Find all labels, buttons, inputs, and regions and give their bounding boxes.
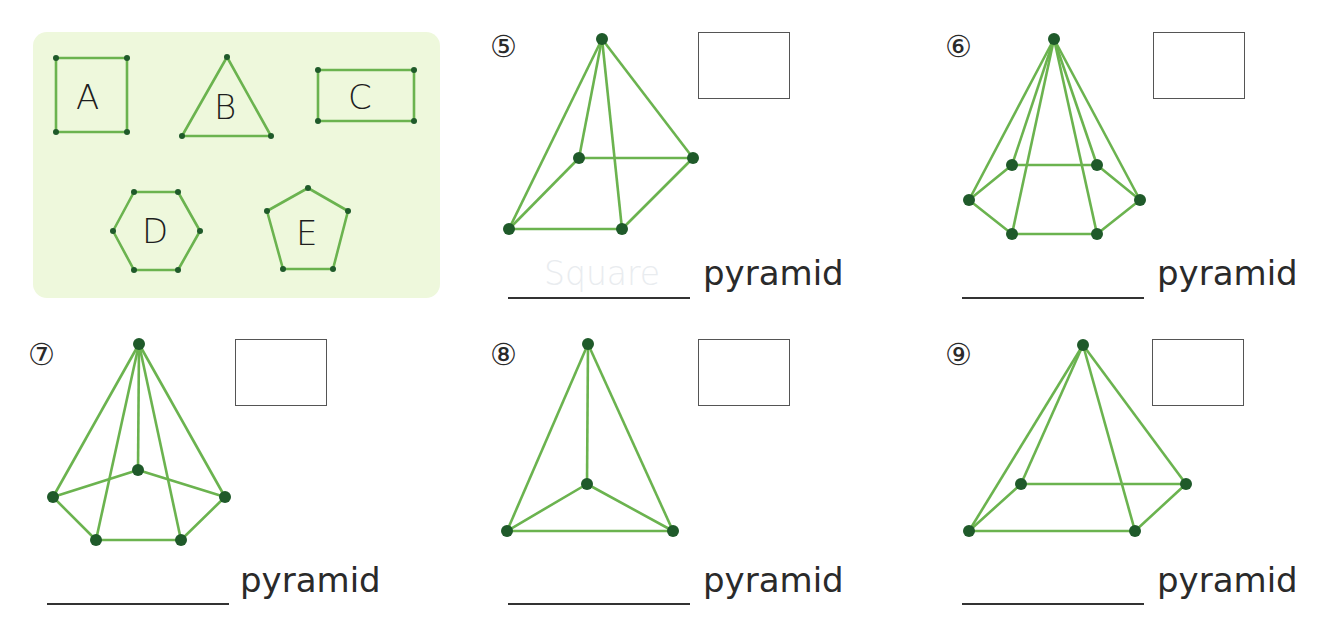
pyramid-8-triangular-icon (507, 344, 673, 531)
question-5-number: ⑤ (490, 32, 517, 62)
question-9-suffix: pyramid (1157, 563, 1298, 597)
question-7-answer-box[interactable] (235, 339, 327, 406)
question-7-suffix: pyramid (240, 563, 381, 597)
question-6-suffix: pyramid (1157, 256, 1298, 290)
shape-e-label: E (296, 216, 317, 250)
question-5-suffix: pyramid (703, 256, 844, 290)
question-6-answer-box[interactable] (1153, 32, 1245, 99)
shape-d-label: D (142, 214, 168, 248)
question-8-blank-line[interactable] (508, 603, 690, 605)
question-8-number: ⑧ (490, 340, 517, 370)
shape-b-label: B (214, 90, 236, 124)
question-7-number: ⑦ (28, 340, 55, 370)
question-5-answer-box[interactable] (698, 32, 790, 99)
question-8-answer-box[interactable] (698, 339, 790, 406)
question-5-hint-text: Square (544, 257, 660, 290)
question-9-answer-box[interactable] (1152, 339, 1244, 406)
question-6-blank-line[interactable] (962, 297, 1144, 299)
question-6-number: ⑥ (945, 32, 972, 62)
pyramid-6-hexagonal-icon (969, 39, 1140, 234)
question-7-blank-line[interactable] (47, 603, 229, 605)
pyramid-7-pentagonal-icon (53, 344, 225, 540)
question-5-blank-line[interactable] (508, 297, 690, 299)
shape-c-label: C (348, 80, 372, 114)
question-9-number: ⑨ (945, 340, 972, 370)
pyramid-5-square-icon (509, 39, 693, 229)
shape-a-label: A (76, 80, 99, 114)
question-9-blank-line[interactable] (962, 603, 1144, 605)
figures-canvas (0, 0, 1324, 640)
question-8-suffix: pyramid (703, 563, 844, 597)
